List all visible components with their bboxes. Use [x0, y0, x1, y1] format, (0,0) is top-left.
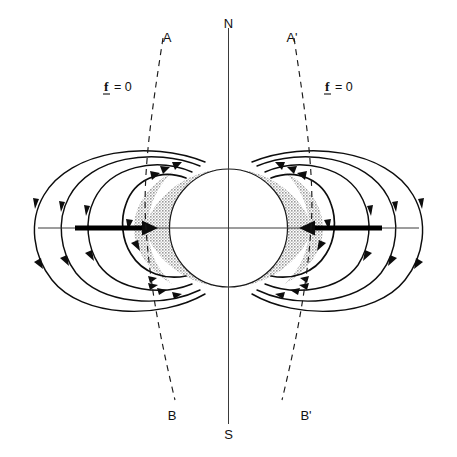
label-curve-bprime: B': [300, 408, 311, 423]
f-symbol-right: f: [325, 79, 330, 94]
f-equals-zero-right: = 0: [335, 80, 353, 94]
label-curve-aprime: A': [286, 30, 297, 45]
label-curve-b: B: [168, 408, 177, 423]
label-north-pole: N: [224, 16, 233, 31]
annotation-f-zero-right: f = 0: [324, 79, 353, 94]
figure-root: N S A B A' B' f = 0 f = 0: [0, 0, 457, 457]
f-equals-zero-left: = 0: [114, 80, 132, 94]
label-curve-a: A: [163, 30, 172, 45]
annotation-f-zero-left: f = 0: [103, 79, 132, 94]
label-south-pole: S: [224, 427, 233, 442]
dipole-field-diagram: N S A B A' B' f = 0 f = 0: [0, 0, 457, 457]
f-symbol-left: f: [104, 79, 109, 94]
